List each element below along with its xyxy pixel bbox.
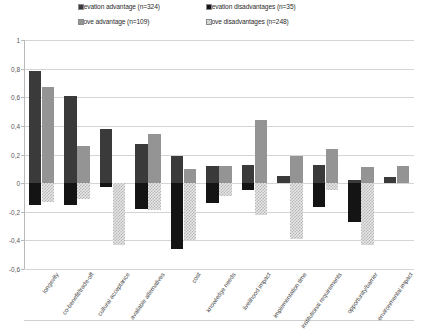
y-axis-tick-label: -0,4 bbox=[9, 237, 20, 244]
bar-elev-adv bbox=[313, 165, 326, 184]
bar-elev-adv bbox=[277, 176, 290, 183]
bar-group bbox=[379, 40, 414, 269]
x-axis-label: implementation time bbox=[271, 271, 307, 319]
legend-item-label: Move advantage (n=109) bbox=[78, 18, 149, 25]
x-axis-label: knowledge needs bbox=[204, 271, 237, 313]
bar-group bbox=[343, 40, 378, 269]
bar-group bbox=[166, 40, 201, 269]
bar-move-dis bbox=[113, 183, 126, 245]
y-axis-tick-label: 1 bbox=[16, 37, 20, 44]
bar-group bbox=[95, 40, 130, 269]
legend-swatch-icon bbox=[206, 19, 212, 25]
bar-move-dis bbox=[290, 183, 303, 239]
bar-group bbox=[130, 40, 165, 269]
bar-move-adv bbox=[219, 166, 232, 183]
bar-group bbox=[59, 40, 94, 269]
bar-move-adv bbox=[184, 169, 197, 183]
y-axis-tick bbox=[21, 155, 24, 156]
bar-move-dis bbox=[148, 183, 161, 210]
legend-item-elev-adv[interactable]: Elevation advantage (n=324) bbox=[78, 3, 206, 10]
x-axis-labels: longevityco-benefit/trade-offcultural ac… bbox=[24, 269, 414, 327]
bar-elev-dis bbox=[313, 183, 326, 207]
bar-elev-dis bbox=[29, 183, 42, 204]
legend-item-label: Move disadvantages (n=248) bbox=[206, 18, 289, 25]
y-axis-tick-label: -0,2 bbox=[9, 208, 20, 215]
bar-elev-dis bbox=[348, 183, 361, 222]
bar-group bbox=[201, 40, 236, 269]
bar-elev-dis bbox=[64, 183, 77, 204]
bar-move-dis bbox=[255, 183, 268, 214]
bar-move-dis bbox=[326, 183, 339, 190]
bar-move-dis bbox=[184, 183, 197, 240]
chart-plot-area: 10,80,60,40,20-0,2-0,4-0,6 bbox=[24, 40, 414, 269]
x-axis-label: co-benefit/trade-off bbox=[61, 271, 95, 316]
legend-swatch-icon bbox=[206, 4, 212, 10]
bar-elev-dis bbox=[135, 183, 148, 209]
y-axis-tick bbox=[21, 212, 24, 213]
bar-elev-dis bbox=[206, 183, 219, 203]
x-axis-label: livelihood impact bbox=[241, 271, 272, 311]
bar-move-dis bbox=[361, 183, 374, 245]
x-axis-label: environmental impact bbox=[376, 271, 414, 322]
bar-elev-dis bbox=[242, 183, 255, 190]
y-axis-tick-label: -0,6 bbox=[9, 266, 20, 273]
bar-move-adv bbox=[148, 134, 161, 183]
bar-elev-dis bbox=[171, 183, 184, 249]
bar-group bbox=[308, 40, 343, 269]
y-axis-tick-label: 0,6 bbox=[11, 94, 20, 101]
x-axis-label: available alternatives bbox=[128, 271, 166, 321]
bar-move-adv bbox=[77, 146, 90, 183]
legend-item-label: Elevation disadvantages (n=35) bbox=[206, 3, 296, 10]
bar-move-adv bbox=[255, 120, 268, 183]
bar-elev-adv bbox=[135, 144, 148, 183]
bar-move-dis bbox=[219, 183, 232, 196]
y-axis-tick-label: 0,2 bbox=[11, 151, 20, 158]
bar-move-adv bbox=[326, 149, 339, 183]
bar-elev-adv bbox=[100, 129, 113, 183]
bar-elev-adv bbox=[64, 96, 77, 183]
bottom-rule bbox=[24, 320, 414, 321]
legend-item-move-dis[interactable]: Move disadvantages (n=248) bbox=[206, 18, 368, 25]
y-axis-tick bbox=[21, 97, 24, 98]
bar-group bbox=[24, 40, 59, 269]
y-axis-tick bbox=[21, 40, 24, 41]
bar-elev-adv bbox=[29, 71, 42, 183]
legend-item-move-adv[interactable]: Move advantage (n=109) bbox=[78, 18, 206, 25]
x-axis-label: cost bbox=[189, 271, 201, 284]
bar-elev-adv bbox=[384, 177, 397, 183]
chart-bars bbox=[24, 40, 414, 269]
bar-move-adv bbox=[290, 156, 303, 183]
chart-legend: Elevation advantage (n=324)Elevation dis… bbox=[78, 3, 368, 25]
bar-move-adv bbox=[361, 167, 374, 183]
x-axis-label: cultural acceptance bbox=[95, 271, 130, 317]
legend-swatch-icon bbox=[78, 19, 84, 25]
bar-move-dis bbox=[42, 183, 55, 202]
bar-group bbox=[272, 40, 307, 269]
bar-group bbox=[237, 40, 272, 269]
x-axis-label: longevity bbox=[40, 271, 59, 294]
y-axis-tick-label: 0,4 bbox=[11, 122, 20, 129]
bar-move-adv bbox=[397, 166, 410, 183]
y-axis-tick bbox=[21, 183, 24, 184]
y-axis-tick bbox=[21, 69, 24, 70]
bar-move-dis bbox=[77, 183, 90, 199]
bar-move-adv bbox=[42, 87, 55, 183]
bar-elev-adv bbox=[171, 156, 184, 183]
legend-swatch-icon bbox=[78, 4, 84, 10]
bar-elev-adv bbox=[206, 166, 219, 183]
y-axis-tick bbox=[21, 126, 24, 127]
y-axis-tick-label: 0,8 bbox=[11, 65, 20, 72]
bar-elev-adv bbox=[242, 165, 255, 184]
x-axis-label: opportunity/barrier bbox=[345, 271, 378, 315]
legend-item-label: Elevation advantage (n=324) bbox=[78, 3, 160, 10]
y-axis-tick-label: 0 bbox=[16, 180, 20, 187]
bar-elev-dis bbox=[100, 183, 113, 187]
legend-item-elev-dis[interactable]: Elevation disadvantages (n=35) bbox=[206, 3, 368, 10]
y-axis-tick bbox=[21, 240, 24, 241]
